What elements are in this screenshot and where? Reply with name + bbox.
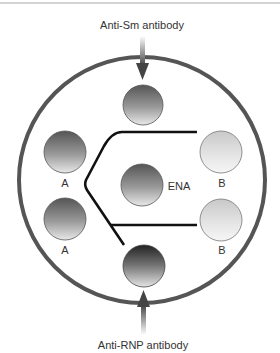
arrow-up-icon	[137, 290, 150, 335]
label-a-upper: A	[61, 177, 68, 189]
label-b-upper: B	[218, 177, 225, 189]
well-b-upper	[200, 131, 242, 173]
label-anti-rnp: Anti-RNP antibody	[98, 339, 188, 351]
label-ena: ENA	[168, 180, 191, 192]
well-b-lower	[200, 199, 242, 241]
well-a-upper	[44, 131, 86, 173]
well-bottom	[123, 245, 165, 287]
label-a-lower: A	[61, 244, 68, 256]
label-anti-sm: Anti-Sm antibody	[100, 19, 184, 31]
well-a-lower	[44, 198, 86, 240]
immunodiffusion-diagram	[0, 0, 280, 353]
label-b-lower: B	[218, 244, 225, 256]
well-ena	[121, 164, 163, 206]
well-top	[123, 85, 163, 125]
